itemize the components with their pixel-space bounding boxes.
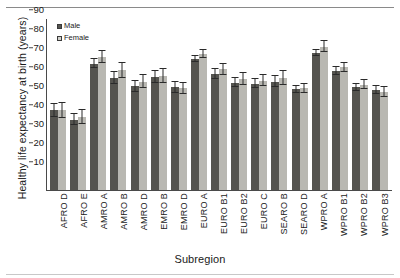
x-tick-label: WPRO B1: [331, 193, 348, 249]
bar-rect: [251, 84, 259, 190]
bar-male: [352, 19, 360, 190]
x-tick-label: EURO A: [190, 193, 207, 249]
x-tick-label: WPRO A: [311, 193, 328, 249]
bar-female: [340, 19, 348, 190]
legend-swatch-female-icon: [57, 36, 62, 41]
bar-group: [271, 19, 287, 190]
bar-group: [191, 19, 207, 190]
x-tick-label: EURO C: [251, 193, 268, 249]
bar-rect: [239, 79, 247, 190]
error-bar-cap: [360, 79, 367, 80]
bar-rect: [320, 47, 328, 190]
error-bar-cap: [373, 93, 380, 94]
error-bar-cap: [99, 50, 106, 51]
bar-rect: [292, 89, 300, 190]
error-bar-cap: [51, 116, 58, 117]
y-tick-mark: [29, 162, 33, 163]
bar-rect: [259, 81, 267, 190]
y-tick-mark: [29, 143, 33, 144]
x-tick-label: EURO B2: [231, 193, 248, 249]
bar-male: [131, 19, 139, 190]
error-bar-cap: [320, 40, 327, 41]
bar-male: [191, 19, 199, 190]
error-bar-cap: [212, 68, 219, 69]
bar-female: [360, 19, 368, 190]
error-bar-cap: [312, 55, 319, 56]
error-bar-cap: [171, 81, 178, 82]
error-bar-cap: [260, 85, 267, 86]
bar-rect: [211, 74, 219, 190]
bar-groups: [47, 19, 391, 190]
bar-rect: [360, 85, 368, 190]
error-bar-cap: [352, 83, 359, 84]
bar-group: [251, 19, 267, 190]
error-bar-line: [283, 71, 284, 84]
error-bar-cap: [159, 68, 166, 69]
error-bar-cap: [131, 80, 138, 81]
y-tick-label: 80: [33, 24, 44, 34]
y-tick-mark: [29, 86, 33, 87]
legend-item-male: Male: [57, 21, 89, 31]
bar-group: [151, 19, 167, 190]
bar-group: [292, 19, 308, 190]
error-bar-cap: [91, 67, 98, 68]
y-tick-mark: [29, 29, 33, 30]
error-bar-cap: [220, 63, 227, 64]
error-bar-cap: [252, 78, 259, 79]
bar-female: [239, 19, 247, 190]
y-tick-label: 90: [33, 5, 44, 15]
bar-female: [300, 19, 308, 190]
bar-male: [151, 19, 159, 190]
x-tick-label: SEARO D: [291, 193, 308, 249]
bar-female: [118, 19, 126, 190]
x-tick-label: WPRO B2: [351, 193, 368, 249]
x-axis-tick-labels: AFRO DAFRO EAMRO AAMRO BAMRO DEMRO BEMRO…: [47, 193, 391, 249]
bar-rect: [151, 77, 159, 190]
bar-rect: [171, 87, 179, 190]
error-bar-cap: [300, 92, 307, 93]
error-bar-cap: [360, 88, 367, 89]
error-bar-cap: [332, 74, 339, 75]
error-bar-cap: [59, 117, 66, 118]
error-bar-cap: [381, 86, 388, 87]
y-tick-mark: [29, 124, 33, 125]
error-bar-cap: [232, 77, 239, 78]
y-tick-label: 40: [33, 100, 44, 110]
error-bar-cap: [340, 62, 347, 63]
error-bar-cap: [272, 75, 279, 76]
error-bar-cap: [79, 123, 86, 124]
chart-legend: Male Female: [57, 21, 89, 45]
y-axis-title: Healthy life expectancy at birth (years): [16, 8, 28, 208]
error-bar-cap: [179, 93, 186, 94]
error-bar-cap: [59, 102, 66, 103]
error-bar-cap: [79, 109, 86, 110]
chart-figure: Healthy life expectancy at birth (years)…: [0, 0, 400, 278]
error-bar-cap: [260, 74, 267, 75]
plot-area: 102030405060708090: [47, 19, 391, 190]
bar-rect: [179, 88, 187, 190]
bar-male: [372, 19, 380, 190]
x-tick-label: AFRO E: [70, 193, 87, 249]
error-bar-cap: [300, 83, 307, 84]
bar-male: [231, 19, 239, 190]
error-bar-cap: [111, 71, 118, 72]
bar-group: [110, 19, 126, 190]
error-bar-cap: [139, 87, 146, 88]
bar-female: [139, 19, 147, 190]
error-bar-cap: [232, 86, 239, 87]
error-bar-cap: [151, 70, 158, 71]
y-tick-mark: [29, 105, 33, 106]
bar-female: [380, 19, 388, 190]
bar-rect: [312, 53, 320, 190]
x-tick-label: SEARO B: [271, 193, 288, 249]
x-tick-label: EMRO D: [170, 193, 187, 249]
x-axis-title: Subregion: [0, 253, 400, 265]
error-bar-line: [142, 75, 143, 88]
y-tick-label: 70: [33, 43, 44, 53]
error-bar-cap: [212, 78, 219, 79]
bar-female: [98, 19, 106, 190]
bar-rect: [332, 71, 340, 190]
page-rule-top: [6, 7, 394, 8]
error-bar-cap: [51, 103, 58, 104]
bar-rect: [159, 76, 167, 190]
